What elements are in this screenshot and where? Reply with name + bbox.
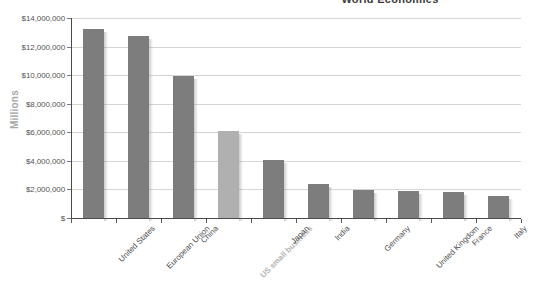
- x-axis-tick-label: United Kingdom: [434, 224, 480, 270]
- y-axis-tick-label: $8,000,000: [26, 99, 65, 108]
- bar: [443, 192, 464, 218]
- y-axis-tick-label: $: [61, 214, 65, 223]
- y-axis-tick-label: $4,000,000: [26, 156, 65, 165]
- y-axis-tick-label: $2,000,000: [26, 185, 65, 194]
- y-axis-tick-label: $10,000,000: [22, 71, 65, 80]
- x-axis-tick: [476, 219, 477, 223]
- bar: [263, 160, 284, 218]
- bar: [488, 196, 509, 218]
- chart-title: World Economies: [270, 0, 510, 5]
- x-axis-tick: [431, 219, 432, 223]
- bar: [218, 131, 239, 218]
- plot-area: $14,000,000$12,000,000$10,000,000$8,000,…: [71, 18, 521, 218]
- x-axis-tick: [206, 219, 207, 223]
- bar: [83, 29, 104, 218]
- bar-chart: World Economies Millions $14,000,000$12,…: [0, 0, 536, 292]
- x-axis-tick: [251, 219, 252, 223]
- y-axis-tick-label: $14,000,000: [22, 14, 65, 23]
- x-axis-tick-label: United States: [116, 224, 156, 264]
- y-axis-line: [71, 18, 72, 219]
- x-axis-tick-label: European Union: [164, 224, 211, 271]
- x-axis-line: [71, 218, 521, 219]
- y-axis-tick-label: $6,000,000: [26, 128, 65, 137]
- y-axis-tick-label: $12,000,000: [22, 42, 65, 51]
- x-axis-tick: [116, 219, 117, 223]
- x-axis-tick: [71, 219, 72, 223]
- bar: [308, 184, 329, 218]
- x-axis-tick: [296, 219, 297, 223]
- gridline: [71, 18, 521, 19]
- x-axis-tick: [386, 219, 387, 223]
- bar: [353, 190, 374, 218]
- x-axis-tick: [521, 219, 522, 223]
- x-axis-tick: [341, 219, 342, 223]
- x-axis-tick-label: India: [333, 224, 351, 242]
- x-axis-tick: [161, 219, 162, 223]
- bar: [173, 76, 194, 218]
- x-axis-tick-label: Germany: [382, 224, 411, 253]
- bar: [128, 36, 149, 218]
- bar: [398, 191, 419, 218]
- x-axis-tick-label: Italy: [512, 224, 529, 241]
- y-axis-title: Millions: [9, 80, 20, 140]
